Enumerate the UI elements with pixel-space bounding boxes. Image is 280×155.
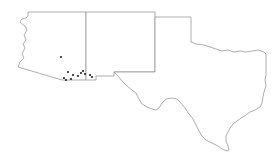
distribution-map	[0, 0, 280, 155]
occurrence-point	[82, 70, 84, 72]
map-canvas	[0, 0, 280, 155]
state-arizona	[18, 12, 86, 80]
occurrence-point	[72, 74, 74, 76]
occurrence-point	[89, 74, 91, 76]
occurrence-point	[80, 72, 82, 74]
state-new-mexico	[86, 12, 155, 80]
occurrence-point	[91, 76, 93, 78]
occurrence-point	[84, 73, 86, 75]
occurrence-point	[65, 79, 67, 81]
occurrence-point	[77, 75, 79, 77]
occurrence-point	[63, 77, 65, 79]
occurrence-point	[70, 78, 72, 80]
occurrence-point	[67, 71, 69, 73]
occurrence-point	[60, 56, 62, 58]
